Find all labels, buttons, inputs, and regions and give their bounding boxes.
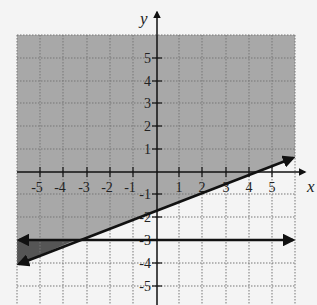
inequality-graph: -5 -4 -3 -2 -1 1 2 3 4 5 5 4 3 2 1 -1 -2… (0, 0, 317, 305)
svg-text:5: 5 (144, 51, 151, 66)
svg-text:-3: -3 (78, 180, 90, 195)
x-axis-label: x (306, 177, 315, 196)
svg-text:-5: -5 (31, 180, 43, 195)
svg-text:3: 3 (144, 96, 151, 111)
svg-text:-5: -5 (139, 279, 151, 294)
svg-text:-2: -2 (101, 180, 113, 195)
svg-text:5: 5 (269, 180, 276, 195)
svg-text:4: 4 (246, 180, 253, 195)
svg-text:-4: -4 (139, 256, 151, 271)
svg-text:2: 2 (144, 119, 151, 134)
svg-text:4: 4 (144, 74, 151, 89)
y-axis-label: y (138, 9, 148, 28)
svg-text:1: 1 (144, 142, 151, 157)
svg-text:-4: -4 (54, 180, 66, 195)
shaded-region (17, 35, 295, 265)
svg-text:-1: -1 (124, 180, 136, 195)
svg-text:1: 1 (176, 180, 183, 195)
svg-text:-1: -1 (139, 187, 151, 202)
